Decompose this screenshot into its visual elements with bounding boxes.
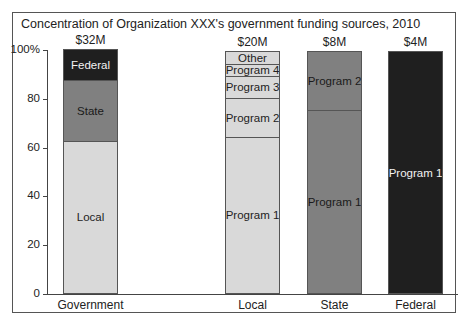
y-tick (43, 148, 47, 149)
bar-segment-program-1: Program 1 (388, 51, 443, 294)
bar-state: Program 1Program 2 (307, 52, 362, 294)
bar-segment-program-4: Program 4 (225, 64, 280, 77)
y-tick (43, 245, 47, 246)
y-tick-label: 40 (27, 189, 40, 201)
bar-segment-program-1: Program 1 (307, 110, 362, 294)
bar-segment-program-2: Program 2 (307, 51, 362, 111)
bar-total-label: $8M (297, 35, 372, 49)
bar-segment-federal: Federal (63, 49, 118, 81)
bar-local: Program 1Program 2Program 3Program 4Othe… (225, 52, 280, 294)
chart-title: Concentration of Organization XXX's gove… (21, 17, 420, 31)
bar-government: LocalStateFederal (63, 50, 118, 294)
bar-segment-other: Other (225, 51, 280, 64)
bar-segment-program-3: Program 3 (225, 76, 280, 99)
bar-federal: Program 1 (388, 52, 443, 294)
x-axis (47, 294, 458, 295)
bar-segment-program-2: Program 2 (225, 98, 280, 138)
y-tick (43, 99, 47, 100)
y-axis (47, 50, 48, 295)
y-tick (43, 196, 47, 197)
y-tick-label: 80 (27, 92, 40, 104)
bar-segment-state: State (63, 80, 118, 142)
x-category-label: Local (205, 298, 300, 312)
y-tick (43, 50, 47, 51)
y-tick-label: 0 (34, 287, 40, 299)
y-tick-label: 60 (27, 141, 40, 153)
bar-total-label: $4M (378, 35, 453, 49)
y-tick-label: 100% (11, 43, 40, 55)
bar-total-label: $20M (215, 35, 290, 49)
y-tick-label: 20 (27, 238, 40, 250)
bar-segment-program-1: Program 1 (225, 137, 280, 294)
bar-segment-local: Local (63, 141, 118, 295)
x-category-label: Government (43, 298, 138, 312)
x-category-label: Federal (368, 298, 463, 312)
bar-total-label: $32M (53, 33, 128, 47)
y-tick (43, 294, 47, 295)
